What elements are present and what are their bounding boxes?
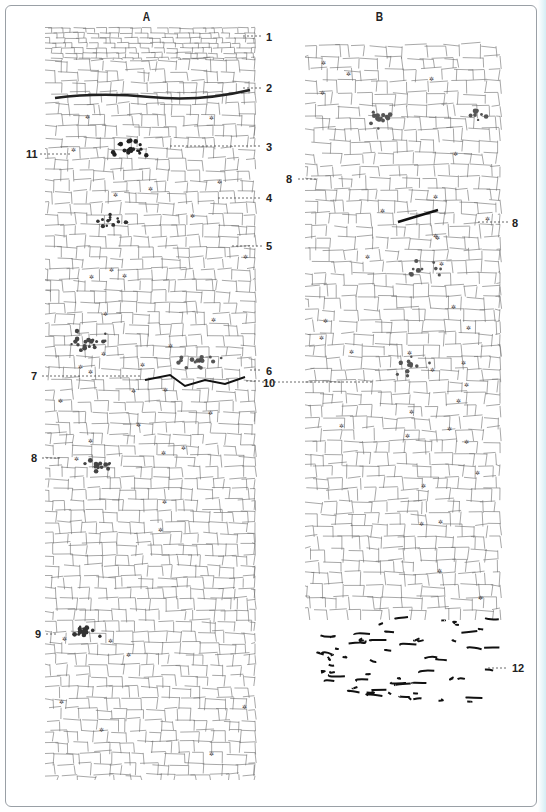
svg-text:✲: ✲ <box>161 449 166 456</box>
svg-text:✲: ✲ <box>349 348 354 355</box>
svg-text:✲: ✲ <box>461 359 466 366</box>
svg-text:✲: ✲ <box>243 253 248 260</box>
svg-text:✲: ✲ <box>109 266 114 273</box>
panel-label-b: B <box>376 10 383 24</box>
svg-text:✲: ✲ <box>339 422 344 429</box>
svg-text:✲: ✲ <box>108 637 113 644</box>
svg-text:✲: ✲ <box>447 425 452 432</box>
svg-text:✲: ✲ <box>453 150 458 157</box>
svg-text:✲: ✲ <box>136 421 141 428</box>
svg-text:✲: ✲ <box>181 444 186 451</box>
svg-text:✲: ✲ <box>148 185 153 192</box>
annotation-2: 2 <box>266 82 272 94</box>
annotation-1: 1 <box>266 31 272 43</box>
svg-text:✲: ✲ <box>475 469 480 476</box>
svg-text:✲: ✲ <box>74 455 79 462</box>
svg-text:✲: ✲ <box>242 703 247 710</box>
svg-text:✲: ✲ <box>380 207 385 214</box>
svg-text:✲: ✲ <box>126 651 131 658</box>
svg-text:✲: ✲ <box>197 357 202 364</box>
svg-text:✲: ✲ <box>140 361 145 368</box>
annotation-7: 7 <box>31 370 37 382</box>
svg-text:✲: ✲ <box>433 232 438 239</box>
svg-text:✲: ✲ <box>478 594 483 601</box>
svg-text:✲: ✲ <box>319 334 324 341</box>
svg-text:✲: ✲ <box>217 178 222 185</box>
svg-text:✲: ✲ <box>464 438 469 445</box>
svg-text:✲: ✲ <box>88 368 93 375</box>
svg-text:✲: ✲ <box>409 408 414 415</box>
svg-text:✲: ✲ <box>323 317 328 324</box>
svg-text:✲: ✲ <box>85 113 90 120</box>
svg-text:✲: ✲ <box>208 409 213 416</box>
svg-text:✲: ✲ <box>438 518 443 525</box>
svg-text:✲: ✲ <box>320 89 325 96</box>
annotation-12: 12 <box>512 662 524 674</box>
svg-text:✲: ✲ <box>62 635 67 642</box>
svg-text:✲: ✲ <box>89 273 94 280</box>
svg-text:✲: ✲ <box>99 726 104 733</box>
annotation-11: 11 <box>26 148 38 160</box>
svg-text:✲: ✲ <box>464 381 469 388</box>
svg-text:✲: ✲ <box>429 75 434 82</box>
annotation-5: 5 <box>266 240 272 252</box>
svg-text:✲: ✲ <box>122 272 127 279</box>
annotation-8-a: 8 <box>31 452 37 464</box>
annotation-6: 6 <box>266 365 272 377</box>
svg-text:✲: ✲ <box>365 253 370 260</box>
svg-text:✲: ✲ <box>71 146 76 153</box>
svg-text:✲: ✲ <box>190 212 195 219</box>
svg-text:✲: ✲ <box>131 387 136 394</box>
svg-text:✲: ✲ <box>88 437 93 444</box>
annotation-8-b-left: 8 <box>286 173 292 185</box>
svg-text:✲: ✲ <box>101 350 106 357</box>
svg-text:✲: ✲ <box>211 316 216 323</box>
annotation-3: 3 <box>266 141 272 153</box>
svg-text:✲: ✲ <box>168 342 173 349</box>
svg-text:✲: ✲ <box>59 698 64 705</box>
annotation-8-b-right: 8 <box>512 217 518 229</box>
annotation-4: 4 <box>266 192 272 204</box>
svg-text:✲: ✲ <box>407 349 412 356</box>
svg-text:✲: ✲ <box>419 520 424 527</box>
svg-text:✲: ✲ <box>321 59 326 66</box>
svg-text:✲: ✲ <box>103 310 108 317</box>
panel-label-a: A <box>143 10 150 24</box>
svg-text:✲: ✲ <box>430 366 435 373</box>
svg-text:✲: ✲ <box>421 482 426 489</box>
svg-text:✲: ✲ <box>78 363 83 370</box>
annotation-10: 10 <box>263 377 275 389</box>
svg-text:✲: ✲ <box>451 303 456 310</box>
svg-text:✲: ✲ <box>433 193 438 200</box>
svg-text:✲: ✲ <box>113 191 118 198</box>
svg-text:✲: ✲ <box>466 324 471 331</box>
svg-text:✲: ✲ <box>209 114 214 121</box>
svg-text:✲: ✲ <box>162 498 167 505</box>
svg-text:✲: ✲ <box>456 397 461 404</box>
svg-text:✲: ✲ <box>405 432 410 439</box>
svg-text:✲: ✲ <box>485 215 490 222</box>
svg-text:✲: ✲ <box>58 397 63 404</box>
svg-text:✲: ✲ <box>158 526 163 533</box>
svg-text:✲: ✲ <box>346 70 351 77</box>
svg-text:✲: ✲ <box>163 386 168 393</box>
annotation-9: 9 <box>35 628 41 640</box>
svg-text:✲: ✲ <box>209 750 214 757</box>
svg-text:✲: ✲ <box>439 260 444 267</box>
svg-text:✲: ✲ <box>437 567 442 574</box>
tissue-illustration: ✲✲✲✲✲✲✲✲✲✲✲✲✲✲✲✲✲✲✲✲✲✲✲✲✲✲✲✲✲✲✲✲✲✲✲✲✲✲✲✲… <box>0 0 546 812</box>
